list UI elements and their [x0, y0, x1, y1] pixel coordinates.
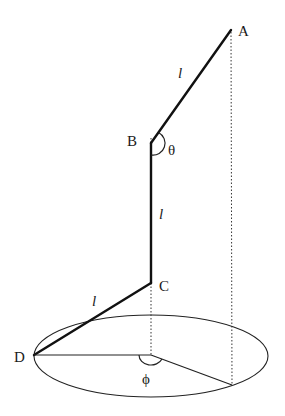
label-a: A: [238, 23, 249, 39]
label-b: B: [127, 133, 137, 149]
base-ellipse: [34, 315, 268, 397]
label-segment-cd: l: [92, 293, 96, 309]
segment-ab: [151, 30, 231, 143]
theta-arc-icon: [151, 133, 165, 156]
label-c: C: [159, 278, 169, 294]
label-segment-bc: l: [159, 206, 163, 222]
dotted-projection-a: [231, 32, 232, 385]
radius-oe: [151, 355, 232, 385]
phi-arc-icon: [139, 355, 162, 365]
label-phi: ϕ: [142, 371, 150, 387]
label-theta: θ: [168, 142, 175, 158]
label-segment-ab: l: [178, 65, 182, 81]
label-d: D: [14, 349, 25, 365]
chain-diagram: A B C D l l l θ ϕ: [0, 0, 285, 416]
